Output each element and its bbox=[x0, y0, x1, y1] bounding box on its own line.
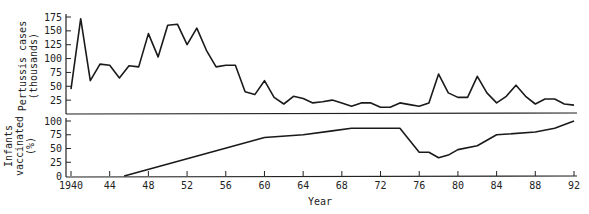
x-tick-label: 48 bbox=[142, 180, 154, 191]
y-tick-label: 25 bbox=[50, 157, 62, 168]
y-axis-title-line: (thousands) bbox=[28, 33, 39, 99]
x-axis-title: Year bbox=[308, 196, 332, 207]
top-panel: Pertussis cases(thousands) 2550751001251… bbox=[17, 12, 577, 115]
infants-vaccinated-line bbox=[124, 121, 574, 176]
pertussis-vaccination-chart: Pertussis cases(thousands) 2550751001251… bbox=[0, 0, 589, 214]
y-axis-title-line: vaccinated bbox=[14, 116, 25, 176]
pertussis-cases-line bbox=[71, 19, 574, 108]
x-tick-label: 76 bbox=[413, 180, 425, 191]
x-tick-label: 64 bbox=[297, 180, 309, 191]
x-tick-label: 88 bbox=[529, 180, 541, 191]
x-tick-label: 60 bbox=[258, 180, 270, 191]
x-tick-label: 44 bbox=[104, 180, 116, 191]
x-tick-label: 68 bbox=[336, 180, 348, 191]
top-ylabel: Pertussis cases(thousands) bbox=[17, 21, 39, 111]
x-tick-label: 72 bbox=[375, 180, 387, 191]
x-axis bbox=[66, 176, 577, 177]
x-tick-label: 80 bbox=[452, 180, 464, 191]
bottom-panel: Infantsvaccinated(%) 0255075100 19404448… bbox=[3, 116, 580, 208]
y-tick-label: 100 bbox=[44, 53, 62, 64]
x-tick-label: 92 bbox=[568, 180, 580, 191]
y-axis-title-line: Pertussis cases bbox=[17, 21, 28, 111]
top-baseline bbox=[66, 113, 577, 114]
y-tick-label: 125 bbox=[44, 39, 62, 50]
x-tick-label: 52 bbox=[181, 180, 193, 191]
top-y-ticks: 255075100125150175 bbox=[44, 12, 71, 106]
y-tick-label: 75 bbox=[50, 129, 62, 140]
x-ticks: 194044485256606468727680848892 bbox=[59, 171, 580, 191]
x-tick-label: 84 bbox=[491, 180, 503, 191]
y-axis-title-line: Infants bbox=[3, 125, 14, 167]
y-tick-label: 50 bbox=[50, 81, 62, 92]
y-axis-title-line: (%) bbox=[25, 137, 36, 155]
x-tick-label: 56 bbox=[220, 180, 232, 191]
x-tick-label: 1940 bbox=[59, 180, 83, 191]
y-tick-label: 100 bbox=[44, 116, 62, 127]
y-tick-label: 50 bbox=[50, 143, 62, 154]
y-tick-label: 150 bbox=[44, 25, 62, 36]
y-tick-label: 75 bbox=[50, 67, 62, 78]
y-tick-label: 175 bbox=[44, 12, 62, 23]
bottom-ylabel: Infantsvaccinated(%) bbox=[3, 116, 36, 176]
bottom-y-ticks: 0255075100 bbox=[44, 116, 71, 182]
y-tick-label: 25 bbox=[50, 95, 62, 106]
